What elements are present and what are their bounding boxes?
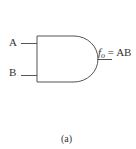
and-gate-body: [37, 36, 98, 82]
output-label: fo = AB: [98, 47, 131, 58]
input-b-label: B: [9, 67, 16, 78]
figure-caption: (a): [61, 133, 72, 144]
input-a-label: A: [9, 37, 17, 48]
and-gate-symbol: [21, 36, 112, 82]
output-expression: = AB: [105, 46, 131, 58]
and-gate-diagram: [0, 0, 136, 149]
